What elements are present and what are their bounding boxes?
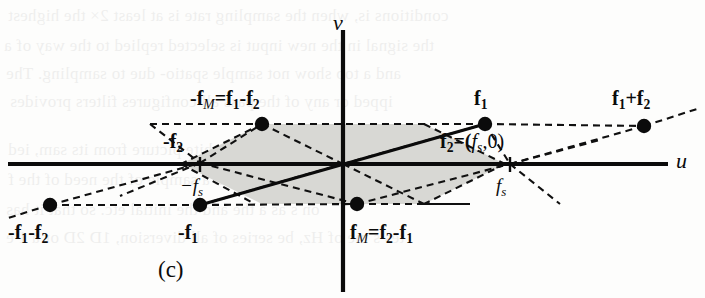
- label-minus-f2-sub: 2: [176, 140, 183, 155]
- label-f1-plus-f2-s2: 2: [644, 97, 651, 112]
- tick-label-fs-positive: fs: [496, 176, 506, 199]
- label-fM-sub: M: [357, 231, 368, 246]
- label-f1-sub: 1: [481, 97, 488, 112]
- dot-fM: [350, 197, 364, 211]
- label-minus-fM-eq: =f: [215, 87, 233, 109]
- tick-fs-negative-sub: s: [198, 184, 203, 199]
- label-minus-f1-sub: 1: [191, 231, 198, 246]
- label-minus-fM-lead: -f: [190, 87, 203, 109]
- label-f1-plus-f2-plus: +f: [625, 87, 643, 109]
- label-fM-lead: f: [350, 221, 357, 243]
- label-minus-f2-lead: -f: [163, 130, 176, 152]
- label-minus-fM-s2: 2: [253, 97, 260, 112]
- dot-minus-f1: [193, 198, 207, 212]
- label-minus-fM-minus: -f: [240, 87, 253, 109]
- label-f2-eq: =(: [453, 130, 471, 152]
- label-f2-rest: ,0): [482, 130, 504, 152]
- dot-minus-fM: [255, 117, 269, 131]
- figure-panel: conditions is, when the sampling rate is…: [0, 0, 705, 298]
- label-mf1mf2-lead: -f: [8, 221, 21, 243]
- label-fM-equals: fM=f2-f1: [350, 222, 413, 245]
- label-minus-fM-s1: 1: [233, 97, 240, 112]
- label-f1-plus-f2-lead: f: [612, 87, 619, 109]
- label-mf1mf2-s2: 2: [41, 231, 48, 246]
- label-f2-lead: f: [440, 130, 447, 152]
- label-f1: f1: [474, 88, 487, 111]
- dot-f1-plus-f2: [637, 119, 651, 133]
- label-minus-fM: -fM=f1-f2: [190, 88, 260, 111]
- label-minus-f1: -f1: [178, 222, 198, 245]
- label-minus-f2: -f2: [163, 131, 183, 154]
- label-fM-s1: 2: [386, 231, 393, 246]
- label-minus-f1-minus-f2: -f1-f2: [8, 222, 48, 245]
- label-minus-f1-lead: -f: [178, 221, 191, 243]
- lattice-diagram: [0, 0, 705, 298]
- v-axis-label: v: [333, 12, 343, 34]
- label-minus-fM-sub: M: [203, 97, 214, 112]
- label-f2-equals: f2=(fs,0): [440, 131, 504, 154]
- tick-fs-positive-sub: s: [501, 184, 506, 199]
- tick-label-fs-negative: −fs: [180, 176, 203, 199]
- dot-minus-f1-minus-f2: [43, 198, 57, 212]
- label-f1-plus-f2: f1+f2: [612, 88, 650, 111]
- label-f1-lead: f: [474, 87, 481, 109]
- figure-caption: (c): [158, 258, 184, 281]
- label-fM-minus: -f: [393, 221, 406, 243]
- tick-fs-negative-text: −f: [180, 175, 198, 196]
- label-mf1mf2-minus: -f: [28, 221, 41, 243]
- label-fM-eq: =f: [368, 221, 386, 243]
- u-axis-label: u: [676, 150, 687, 172]
- label-fM-s2: 1: [406, 231, 413, 246]
